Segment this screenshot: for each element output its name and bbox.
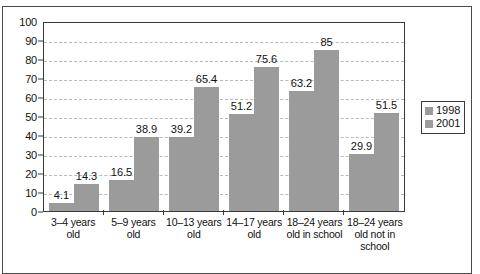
y-axis-tick-label: 90 [3, 36, 37, 47]
bar-1998[interactable]: 4.1 [49, 23, 74, 211]
bar-rect[interactable] [49, 203, 74, 211]
x-axis-category-label: 18–24 years old in school [284, 216, 344, 252]
x-axis-category-label: 3–4 years old [43, 216, 103, 252]
bar-group: 4.114.3 [44, 23, 104, 211]
bar-1998[interactable]: 39.2 [169, 23, 194, 211]
bar-rect[interactable] [349, 154, 374, 211]
legend-swatch [425, 120, 433, 128]
bar-value-label: 29.9 [351, 141, 372, 152]
bar-group: 63.285 [284, 23, 344, 211]
bar-group: 39.265.4 [164, 23, 224, 211]
bar-1998[interactable]: 63.2 [289, 23, 314, 211]
bar-2001[interactable]: 75.6 [254, 23, 279, 211]
bar-2001[interactable]: 38.9 [134, 23, 159, 211]
bar-value-label: 16.5 [111, 167, 132, 178]
bar-value-label: 14.3 [76, 171, 97, 182]
bar-2001[interactable]: 85 [314, 23, 339, 211]
bar-value-label: 4.1 [54, 190, 69, 201]
y-axis-tick-label: 20 [3, 169, 37, 180]
bar-value-label: 38.9 [136, 124, 157, 135]
bar-groups: 4.114.316.538.939.265.451.275.663.28529.… [44, 23, 404, 211]
y-axis-tick-label: 10 [3, 188, 37, 199]
bar-2001[interactable]: 65.4 [194, 23, 219, 211]
bar-rect[interactable] [134, 137, 159, 211]
bar-rect[interactable] [289, 91, 314, 211]
x-axis-labels: 3–4 years old5–9 years old10–13 years ol… [43, 216, 405, 252]
bar-2001[interactable]: 51.5 [374, 23, 399, 211]
plot-area: 4.114.316.538.939.265.451.275.663.28529.… [43, 22, 405, 212]
legend-item[interactable]: 2001 [425, 117, 460, 130]
bar-value-label: 51.2 [231, 101, 252, 112]
bar-rect[interactable] [194, 87, 219, 211]
legend-label: 2001 [436, 118, 460, 129]
x-axis-category-label: 5–9 years old [103, 216, 163, 252]
bar-1998[interactable]: 51.2 [229, 23, 254, 211]
y-axis-tick-label: 40 [3, 131, 37, 142]
bar-group: 51.275.6 [224, 23, 284, 211]
bar-rect[interactable] [74, 184, 99, 211]
y-axis-tick-label: 70 [3, 74, 37, 85]
x-axis-category-label: 18–24 years old not in school [345, 216, 405, 252]
y-axis-tick-label: 0 [3, 207, 37, 218]
bar-group: 29.951.5 [344, 23, 404, 211]
bar-value-label: 85 [320, 37, 332, 48]
bar-rect[interactable] [254, 67, 279, 211]
legend-swatch [425, 107, 433, 115]
x-axis-category-label: 10–13 years old [164, 216, 224, 252]
y-axis: 1009080706050403020100 [0, 22, 43, 212]
bar-group: 16.538.9 [104, 23, 164, 211]
legend-item[interactable]: 1998 [425, 104, 460, 117]
y-axis-tick-label: 80 [3, 55, 37, 66]
bar-value-label: 75.6 [256, 54, 277, 65]
bar-rect[interactable] [109, 180, 134, 211]
x-axis-category-label: 14–17 years old [224, 216, 284, 252]
y-axis-tick-label: 30 [3, 150, 37, 161]
legend: 19982001 [421, 101, 465, 134]
bar-rect[interactable] [229, 114, 254, 211]
bar-2001[interactable]: 14.3 [74, 23, 99, 211]
legend-label: 1998 [436, 105, 460, 116]
bar-1998[interactable]: 29.9 [349, 23, 374, 211]
bar-value-label: 65.4 [196, 74, 217, 85]
bar-1998[interactable]: 16.5 [109, 23, 134, 211]
y-axis-tick-label: 60 [3, 93, 37, 104]
bar-value-label: 51.5 [376, 100, 397, 111]
bar-value-label: 39.2 [171, 124, 192, 135]
bar-rect[interactable] [169, 137, 194, 211]
bar-rect[interactable] [374, 113, 399, 211]
bar-rect[interactable] [314, 50, 339, 212]
y-axis-tick-label: 50 [3, 112, 37, 123]
bar-value-label: 63.2 [291, 78, 312, 89]
y-axis-tick-label: 100 [3, 17, 37, 28]
